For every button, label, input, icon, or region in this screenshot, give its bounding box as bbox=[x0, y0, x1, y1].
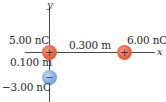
y-axis-label: y bbox=[47, 0, 53, 10]
charge-label-q3: −3.00 nC bbox=[2, 82, 51, 93]
x-axis-label: x bbox=[157, 47, 163, 57]
distance-label-y: 0.100 m bbox=[10, 57, 52, 68]
distance-label-x: 0.300 m bbox=[69, 40, 111, 51]
plus-sign-icon: + bbox=[120, 48, 128, 58]
charge-label-q1: 5.00 nC bbox=[9, 35, 49, 46]
positive-charge-x-axis: + bbox=[117, 45, 132, 60]
charge-label-q2: 6.00 nC bbox=[127, 35, 166, 46]
